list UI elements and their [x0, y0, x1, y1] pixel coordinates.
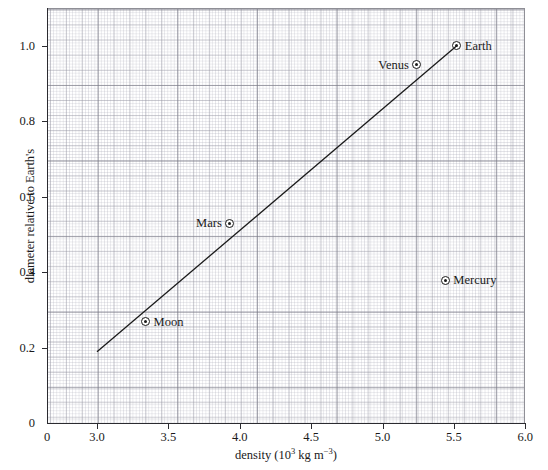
data-point-label-venus: Venus [378, 58, 409, 71]
data-point-label-moon: Moon [154, 315, 184, 328]
x-axis-title: density (103 kg m−3) [47, 448, 525, 463]
y-axis-tick [42, 46, 47, 47]
x-axis-tick-label: 5.5 [446, 431, 462, 444]
x-axis-tick-label: 4.5 [303, 431, 319, 444]
scatter-chart-figure: 3.03.54.04.55.05.56.00.20.40.60.81.0Moon… [0, 0, 548, 470]
x-axis-tick [383, 424, 384, 429]
data-point-label-mars: Mars [196, 217, 222, 230]
x-axis-title-mid: kg m [295, 448, 323, 462]
y-axis-tick [42, 197, 47, 198]
x-axis-tick-label: 5.0 [375, 431, 391, 444]
x-axis-tick [97, 424, 98, 429]
y-axis-title: diameter relative to Earth's [20, 8, 40, 424]
y-axis-tick [42, 121, 47, 122]
x-axis-title-tail: ) [333, 448, 337, 462]
y-axis-line [47, 8, 48, 424]
x-axis-origin-label: 0 [44, 431, 50, 444]
y-axis-tick [42, 272, 47, 273]
y-axis-tick [42, 348, 47, 349]
data-point-label-earth: Earth [465, 40, 492, 53]
x-axis-title-text: density (10 [235, 448, 291, 462]
x-axis-tick [168, 424, 169, 429]
x-axis-tick-label: 6.0 [517, 431, 533, 444]
x-axis-tick [525, 424, 526, 429]
x-axis-tick [454, 424, 455, 429]
x-axis-tick-label: 4.0 [232, 431, 248, 444]
data-point-marker-mercury[interactable] [441, 276, 450, 285]
data-point-label-mercury: Mercury [453, 274, 496, 287]
x-axis-title-exp2: −3 [324, 446, 333, 456]
x-axis-tick-label: 3.0 [89, 431, 105, 444]
x-axis-tick-label: 3.5 [161, 431, 177, 444]
plot-area [47, 8, 525, 424]
x-axis-tick [311, 424, 312, 429]
x-axis-tick [240, 424, 241, 429]
